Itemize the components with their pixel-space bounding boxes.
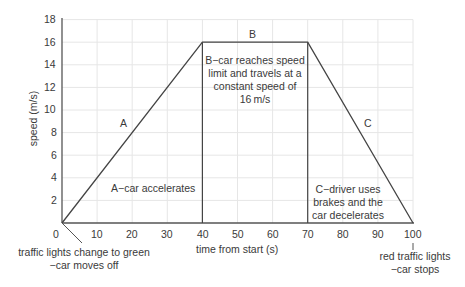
y-tick: 8 <box>51 126 57 138</box>
x-tick: 60 <box>267 228 279 240</box>
annotation-end: red traffic lights −car stops <box>375 250 455 276</box>
annotation-start: traffic lights change to green −car move… <box>14 246 154 272</box>
start-pointer <box>62 223 82 243</box>
annotation-b-line: constant speed of <box>204 80 306 93</box>
y-tick: 4 <box>51 171 57 183</box>
x-tick: 40 <box>197 228 209 240</box>
y-tick: 14 <box>44 58 56 70</box>
x-tick: 30 <box>161 228 173 240</box>
annotation-c-line: brakes and the <box>312 196 384 209</box>
annotation-b: B−car reaches speed limit and travels at… <box>204 54 306 106</box>
y-axis-label: speed (m/s) <box>27 84 40 154</box>
annotation-c: C−driver uses brakes and the car deceler… <box>312 183 384 222</box>
annotation-end-line: red traffic lights <box>375 250 455 263</box>
x-tick: 100 <box>404 228 422 240</box>
annotation-c-line: C−driver uses <box>312 183 384 196</box>
x-tick: 50 <box>232 228 244 240</box>
annotation-b-line: limit and travels at a <box>204 67 306 80</box>
x-axis-label: time from start (s) <box>196 243 278 256</box>
x-tick: 0 <box>53 228 59 240</box>
annotation-b-line: B−car reaches speed <box>204 54 306 67</box>
x-tick: 70 <box>302 228 314 240</box>
x-tick: 80 <box>337 228 349 240</box>
segment-label-b: B <box>249 28 256 41</box>
annotation-start-line: −car moves off <box>14 259 154 272</box>
segment-label-a: A <box>120 117 127 130</box>
annotation-c-line: car decelerates <box>312 209 384 222</box>
annotation-b-line: 16 m/s <box>204 93 306 106</box>
y-tick: 16 <box>44 36 56 48</box>
y-tick: 2 <box>51 194 57 206</box>
y-tick: 18 <box>44 13 56 25</box>
x-tick: 10 <box>91 228 103 240</box>
x-tick: 90 <box>372 228 384 240</box>
annotation-end-line: −car stops <box>375 263 455 276</box>
y-tick: 6 <box>51 149 57 161</box>
x-tick: 20 <box>126 228 138 240</box>
y-tick: 10 <box>44 103 56 115</box>
y-tick: 12 <box>44 81 56 93</box>
annotation-start-line: traffic lights change to green <box>14 246 154 259</box>
annotation-a: A−car accelerates <box>111 182 195 195</box>
segment-label-c: C <box>364 117 372 130</box>
